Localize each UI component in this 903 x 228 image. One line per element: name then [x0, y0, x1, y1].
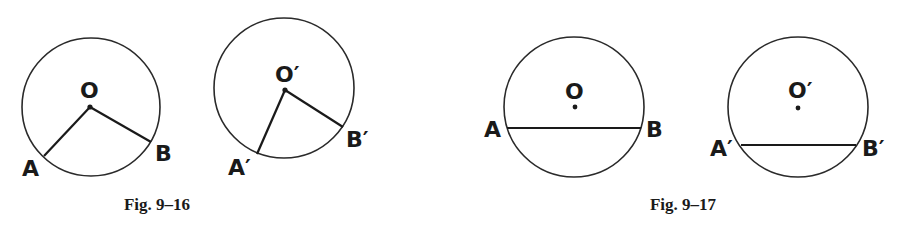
fig-9-16-circle-1: O A B	[22, 38, 172, 181]
geometry-figures: O A B O′ A′ B′ Fig. 9–16 O A B O′ A′ B′ …	[0, 0, 903, 228]
label-o-2: O	[565, 79, 584, 104]
center-point-o	[87, 104, 92, 109]
fig-9-17-circle-1: O A B	[484, 37, 663, 177]
caption-fig-9-17: Fig. 9–17	[650, 195, 717, 214]
radius-ob-prime	[285, 90, 343, 127]
label-b-prime-2: B′	[862, 136, 885, 161]
caption-fig-9-16: Fig. 9–16	[124, 195, 190, 214]
radius-oa	[44, 107, 90, 156]
radius-oa-prime	[257, 90, 285, 154]
label-a-2: A	[484, 117, 501, 142]
center-point-o-prime-2	[796, 106, 801, 111]
label-a-prime: A′	[228, 155, 251, 180]
label-b-prime: B′	[346, 127, 369, 152]
center-point-o-prime	[282, 87, 287, 92]
label-o-prime-2: O′	[788, 78, 813, 103]
label-a: A	[22, 156, 39, 181]
fig-9-16-circle-2: O′ A′ B′	[214, 18, 369, 180]
label-a-prime-2: A′	[710, 136, 733, 161]
label-o: O	[80, 78, 99, 103]
fig-9-17-circle-2: O′ A′ B′	[710, 37, 885, 177]
center-point-o-2	[573, 105, 578, 110]
radius-ob	[90, 107, 151, 142]
label-b: B	[155, 141, 172, 166]
label-o-prime: O′	[275, 62, 300, 87]
label-b-2: B	[646, 117, 663, 142]
